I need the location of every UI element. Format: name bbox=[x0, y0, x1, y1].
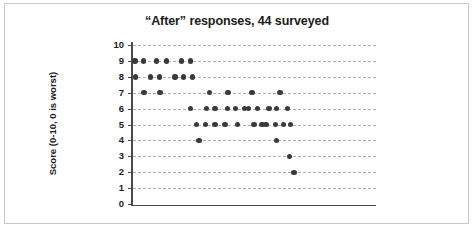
y-tick-label-2: 2 bbox=[102, 166, 124, 177]
plot-area bbox=[132, 40, 377, 210]
data-point bbox=[133, 74, 138, 79]
y-tick-label-6: 6 bbox=[102, 103, 124, 114]
y-axis-title: Score (0-10, 0 is worst) bbox=[47, 64, 58, 184]
data-point bbox=[196, 138, 201, 143]
data-point bbox=[157, 74, 162, 79]
data-point bbox=[212, 106, 217, 111]
data-point bbox=[154, 58, 159, 63]
data-point bbox=[225, 90, 230, 95]
y-tick-label-4: 4 bbox=[102, 134, 124, 145]
data-point bbox=[266, 106, 271, 111]
data-point bbox=[188, 106, 193, 111]
data-point bbox=[288, 122, 293, 127]
y-tick-label-5: 5 bbox=[102, 119, 124, 130]
data-point bbox=[181, 74, 186, 79]
data-point bbox=[233, 106, 238, 111]
data-point bbox=[148, 74, 153, 79]
data-point bbox=[263, 122, 268, 127]
y-tick-label-3: 3 bbox=[102, 150, 124, 161]
data-point bbox=[157, 90, 162, 95]
data-point bbox=[287, 154, 292, 159]
data-point bbox=[291, 170, 296, 175]
y-tick-label-8: 8 bbox=[102, 71, 124, 82]
data-point bbox=[249, 90, 254, 95]
y-tick-label-10: 10 bbox=[102, 39, 124, 50]
data-point bbox=[141, 90, 146, 95]
data-point bbox=[204, 106, 209, 111]
data-point bbox=[132, 58, 137, 63]
chart-screenshot: “After” responses, 44 surveyed 012345678… bbox=[0, 0, 474, 229]
chart-title: “After” responses, 44 surveyed bbox=[0, 14, 474, 28]
data-point bbox=[172, 74, 177, 79]
data-point bbox=[164, 58, 169, 63]
data-point bbox=[274, 138, 279, 143]
data-point bbox=[281, 122, 286, 127]
y-tick-label-1: 1 bbox=[102, 182, 124, 193]
data-point bbox=[188, 58, 193, 63]
y-tick-label-7: 7 bbox=[102, 87, 124, 98]
data-point bbox=[194, 122, 199, 127]
data-point bbox=[251, 122, 256, 127]
data-point bbox=[212, 122, 217, 127]
data-point bbox=[207, 90, 212, 95]
data-point bbox=[277, 90, 282, 95]
data-point bbox=[246, 106, 251, 111]
data-point bbox=[190, 74, 195, 79]
data-point bbox=[222, 122, 227, 127]
data-point bbox=[141, 58, 146, 63]
y-tick-label-0: 0 bbox=[102, 198, 124, 209]
data-point bbox=[274, 106, 279, 111]
data-point bbox=[225, 106, 230, 111]
y-tick-label-9: 9 bbox=[102, 55, 124, 66]
data-point bbox=[235, 122, 240, 127]
data-point bbox=[179, 58, 184, 63]
data-point bbox=[273, 122, 278, 127]
data-point bbox=[285, 106, 290, 111]
data-point bbox=[255, 106, 260, 111]
data-point bbox=[203, 122, 208, 127]
